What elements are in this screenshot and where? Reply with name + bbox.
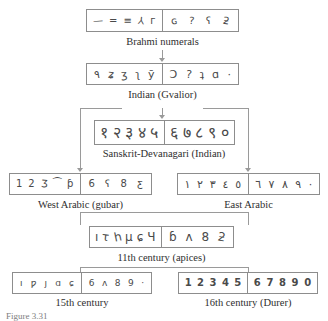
glyph: 8 [279, 278, 286, 288]
connector-apices-join [80, 212, 249, 213]
glyph: २ [113, 125, 121, 141]
bracket-right-drop [248, 108, 249, 169]
century15-digits-right: 6 ʌ 8 9 · [82, 273, 151, 293]
century16-digits-left: 1 2 3 4 5 [179, 273, 248, 293]
bracket-left-segment [80, 108, 122, 109]
glyph: ७ [183, 125, 191, 141]
glyph: ƹ [137, 179, 143, 189]
glyph: 4 [222, 278, 229, 288]
glyph: Ч [147, 231, 155, 243]
numeral-box-sanskrit: १ २ ३ ४ ५ ६ ७ ८ ९ ० [94, 120, 235, 145]
glyph: · [141, 279, 144, 288]
numeral-box-gvalior: ٩ ʑ ʒ ʅ ӯ Ɔ ? ʇ ɑ · [86, 63, 239, 85]
glyph: ȷ [45, 279, 48, 288]
glyph: ४ [138, 125, 146, 141]
glyph: ƻ [222, 15, 230, 26]
glyph: ɑ [212, 68, 220, 79]
glyph: Ʒ [40, 179, 48, 190]
glyph: ʇ [200, 69, 204, 80]
glyph: ٥ [235, 179, 241, 190]
glyph: ɑ [55, 279, 61, 288]
glyph: ʕ [206, 15, 212, 25]
glyph: ٩ [295, 179, 301, 190]
glyph: ٤ [222, 179, 228, 190]
numeral-box-century15: ı ƿ ȷ ɑ ɕ 6 ʌ 8 9 · [12, 272, 152, 294]
caption-sanskrit: Sanskrit-Devanagari (Indian) [64, 148, 264, 159]
glyph: ƿ [31, 279, 37, 288]
sanskrit-digits-right: ६ ७ ८ ९ ० [165, 121, 235, 144]
glyph: 8 [115, 279, 121, 288]
glyph: ٢ [197, 179, 203, 190]
glyph: 7 [266, 278, 273, 288]
numeral-box-west-arabic: 1 2 Ʒ ⁀ ƥ 6 ʕ 8 ƹ [9, 173, 152, 195]
caption-century16: 16th century (Durer) [178, 297, 318, 308]
glyph: ʒ [121, 68, 128, 79]
caption-west-arabic: West Arabic (gubar) [9, 199, 152, 210]
bracket-right-segment [203, 108, 248, 109]
glyph: ʕ [105, 179, 111, 189]
caption-east-arabic: East Arabic [177, 199, 320, 210]
numeral-box-century16: 1 2 3 4 5 6 7 8 9 0 [178, 272, 318, 294]
glyph: ʑ [107, 68, 114, 80]
apices-digits-right: ɓ ʌ 8 ƻ [162, 227, 234, 247]
glyph: ١ [184, 179, 190, 190]
glyph: Ɔ [170, 69, 178, 80]
glyph: ٧ [269, 179, 275, 190]
caption-gvalior: Indian (Gvalior) [86, 89, 239, 100]
caption-apices: 11th century (apices) [89, 252, 234, 263]
glyph: ⁀ [53, 179, 61, 189]
glyph: ı [20, 279, 23, 288]
arrowhead-sanskrit [159, 115, 165, 119]
century15-digits-left: ı ƿ ȷ ɑ ɕ [13, 273, 82, 293]
glyph: · [309, 179, 313, 190]
glyph: ० [221, 125, 229, 141]
glyph: ? [185, 68, 192, 80]
bracket-left-drop [80, 108, 81, 169]
glyph: 1 [185, 278, 192, 288]
glyph: = [109, 16, 117, 26]
west-arabic-digits-right: 6 ʕ 8 ƹ [81, 174, 152, 194]
glyph: ı [95, 231, 98, 243]
glyph: ɓ [169, 231, 177, 243]
glyph: — [93, 15, 104, 26]
glyph: ʅ [135, 69, 140, 80]
glyph: 6 [89, 279, 95, 288]
brahmi-digits-left: — = ≡ ⅄ г [87, 10, 163, 31]
glyph: 6 [89, 179, 95, 189]
glyph: ९ [208, 125, 216, 141]
glyph: ɢ [171, 15, 179, 26]
arrowhead-west-arabic [77, 168, 83, 172]
bracket-century-span [80, 267, 249, 268]
glyph: ƻ [217, 230, 227, 243]
glyph: 9 [292, 278, 299, 288]
sanskrit-digits-left: १ २ ३ ४ ५ [95, 121, 165, 144]
glyph: ʌ [185, 231, 192, 243]
glyph: ӯ [148, 69, 155, 80]
connector-west-to-apices [80, 212, 81, 225]
glyph: ८ [195, 125, 203, 141]
east-arabic-digits-left: ١ ٢ ٣ ٤ ٥ [178, 174, 249, 194]
glyph: १ [100, 125, 108, 141]
glyph: ٨ [282, 179, 288, 190]
numeral-box-apices: ı τ һ μ ɕ Ч ɓ ʌ 8 ƻ [89, 226, 234, 248]
glyph: 8 [120, 179, 126, 189]
glyph: ६ [170, 125, 178, 141]
glyph: ५ [150, 125, 158, 141]
glyph: ɕ [69, 279, 74, 288]
glyph: 2 [197, 278, 204, 288]
glyph: ٦ [255, 179, 261, 190]
glyph: 1 [16, 179, 22, 189]
glyph: ٣ [210, 179, 216, 190]
caption-brahmi: Brahmi numerals [86, 36, 239, 47]
glyph: ? [189, 15, 195, 26]
arrowhead-gvalior [159, 58, 165, 62]
glyph: 0 [304, 278, 311, 288]
glyph: ƥ [67, 179, 73, 189]
apices-digits-left: ı τ һ μ ɕ Ч [90, 227, 162, 247]
arrowhead-east-arabic [245, 168, 251, 172]
numeral-box-brahmi: — = ≡ ⅄ г ɢ ? ʕ ƻ [86, 9, 239, 32]
glyph: ٩ [94, 69, 100, 80]
glyph: ɕ [137, 231, 144, 243]
glyph: г [150, 16, 155, 26]
century16-digits-right: 6 7 8 9 0 [248, 273, 317, 293]
